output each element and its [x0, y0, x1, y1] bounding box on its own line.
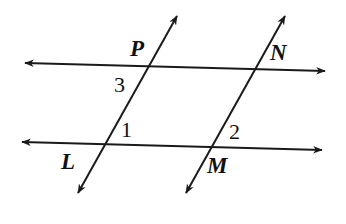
angle-label-3: 3 [114, 74, 125, 96]
label-N: N [270, 41, 287, 64]
angle-label-1: 1 [121, 119, 132, 141]
label-M: M [207, 154, 227, 177]
label-P: P [130, 37, 144, 60]
left-transversal-line [78, 16, 177, 193]
angle-label-2: 2 [229, 121, 240, 143]
geometry-canvas [0, 0, 346, 224]
label-L: L [61, 150, 75, 173]
geometry-figure: PNLM312 [0, 0, 346, 224]
